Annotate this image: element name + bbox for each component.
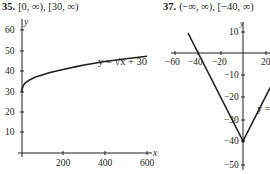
x-axis-label: x xyxy=(152,148,158,158)
chart-37-labels: y −60 −40 −20 20 10 −10 −20 −30 −40 −50 … xyxy=(165,19,270,170)
vertex-point xyxy=(242,140,245,143)
x-tick-label: −20 xyxy=(212,57,227,67)
x-tick-label: 20 xyxy=(261,57,270,67)
y-axis-label: y xyxy=(23,17,29,27)
equation-label: y = xyxy=(257,103,270,114)
y-tick-label: −50 xyxy=(224,160,239,170)
x-tick-label: −60 xyxy=(165,57,180,67)
chart-35-labels: y 60 50 40 30 20 10 200 400 600 x y = √x… xyxy=(5,17,158,168)
y-tick-label: 10 xyxy=(229,27,239,37)
charts-canvas: y 60 50 40 30 20 10 200 400 600 x y = √x… xyxy=(0,0,270,174)
chart-35 xyxy=(18,19,152,157)
y-tick-label: −10 xyxy=(224,70,239,80)
equation-label: y = √x + 30 xyxy=(98,56,147,67)
y-tick-label: 10 xyxy=(5,127,15,137)
y-tick-label: 40 xyxy=(5,66,15,76)
y-tick-label: −30 xyxy=(224,115,239,125)
chart-37 xyxy=(171,22,270,170)
x-tick-label: 400 xyxy=(98,158,113,168)
x-tick-label: −40 xyxy=(188,57,203,67)
y-axis-label: y xyxy=(239,19,244,28)
y-tick-label: −40 xyxy=(224,136,239,146)
y-tick-label: 20 xyxy=(5,107,15,117)
x-tick-label: 200 xyxy=(56,158,71,168)
y-tick-label: −20 xyxy=(224,92,239,102)
x-tick-label: 600 xyxy=(140,158,155,168)
y-tick-label: 30 xyxy=(5,87,15,97)
y-tick-label: 60 xyxy=(5,25,15,35)
y-tick-label: 50 xyxy=(5,46,15,56)
